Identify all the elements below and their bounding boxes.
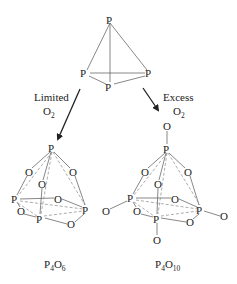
p4o6-o: O [25, 166, 33, 178]
arrow-limited-o2: Limited O2 [34, 89, 80, 139]
p4o6-o: O [69, 166, 77, 178]
condition-excess-label: Excess [163, 91, 194, 103]
p4-atom-right: P [145, 67, 151, 79]
p4o10-o-terminal: O [220, 210, 228, 222]
arrow-excess-o2: Excess O2 [143, 88, 194, 120]
p4o10-o-terminal: O [163, 120, 171, 132]
p4o6-o: O [38, 178, 46, 190]
formula-p4o10: P4O10 [155, 258, 181, 273]
p4-tetrahedron: P P P P [80, 14, 151, 93]
p4o10-structure: P P P P O O O O O O O O O O [102, 120, 228, 246]
reaction-diagram: P P P P Limited O2 Excess O2 [0, 0, 237, 284]
condition-limited-label: Limited [34, 91, 69, 103]
p4o10-p-right: P [196, 204, 202, 216]
p4o6-p-left: P [11, 193, 17, 205]
p4o10-p-top: P [163, 143, 169, 155]
p4o6-structure: P P P P O O O O O O [11, 142, 88, 230]
p4-atom-front: P [105, 81, 111, 93]
p4o10-o-bridge: O [141, 166, 149, 178]
p4o6-o: O [54, 193, 62, 205]
p4o10-p-bottom: P [153, 213, 159, 225]
p4o6-p-right: P [82, 204, 88, 216]
condition-limited-o2: O2 [43, 105, 55, 120]
condition-excess-o2: O2 [173, 105, 185, 120]
p4o10-o-bridge: O [171, 193, 179, 205]
p4-atom-top: P [106, 14, 112, 26]
p4o10-o-bridge: O [186, 216, 194, 228]
p4o6-p-top: P [48, 142, 54, 154]
p4-atom-left: P [80, 67, 86, 79]
p4o10-o-terminal: O [102, 205, 110, 217]
p4o10-o-bridge: O [154, 178, 162, 190]
p4o6-o: O [67, 218, 75, 230]
formula-p4o6: P4O6 [44, 258, 66, 273]
p4o10-o-bridge: O [133, 205, 141, 217]
p4o10-o-terminal: O [153, 234, 161, 246]
p4o6-p-bottom: P [36, 213, 42, 225]
p4o6-o: O [17, 205, 25, 217]
p4o10-o-bridge: O [184, 166, 192, 178]
p4o10-p-left: P [127, 192, 133, 204]
